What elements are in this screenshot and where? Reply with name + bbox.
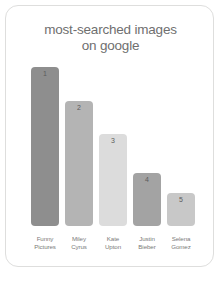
xtick-line: Kate (95, 235, 131, 243)
xtick-line: Pictures (27, 243, 63, 251)
xtick-label-miley-cyrus: Miley Cyrus (61, 235, 97, 251)
bar-kate-upton: 3 (99, 134, 127, 226)
bar-justin-bieber: 4 (133, 173, 161, 226)
bar-miley-cyrus: 2 (65, 101, 93, 226)
bar-funny-pictures: 1 (31, 67, 59, 226)
xtick-label-justin-bieber: Justin Bieber (129, 235, 165, 251)
xtick-line: Gomez (163, 243, 199, 251)
xtick-line: Funny (27, 235, 63, 243)
xtick-label-funny-pictures: Funny Pictures (27, 235, 63, 251)
xtick-line: Justin (129, 235, 165, 243)
xtick-line: Cyrus (61, 243, 97, 251)
xtick-label-selena-gomez: Selena Gomez (163, 235, 199, 251)
bar-rank-label: 1 (31, 70, 59, 78)
bar-rank-label: 4 (133, 176, 161, 184)
bar-selena-gomez: 5 (167, 193, 195, 226)
xtick-label-kate-upton: Kate Upton (95, 235, 131, 251)
xtick-line: Upton (95, 243, 131, 251)
xtick-line: Miley (61, 235, 97, 243)
bar-rank-label: 2 (65, 104, 93, 112)
bar-chart-plot-area: 1 2 3 4 5 Funny Pictures Miley Cyrus Kat… (6, 6, 215, 268)
bar-rank-label: 3 (99, 137, 127, 145)
bar-rank-label: 5 (167, 196, 195, 204)
xtick-line: Selena (163, 235, 199, 243)
chart-card: most-searched images on google 1 2 3 4 5… (5, 5, 214, 267)
xtick-line: Bieber (129, 243, 165, 251)
